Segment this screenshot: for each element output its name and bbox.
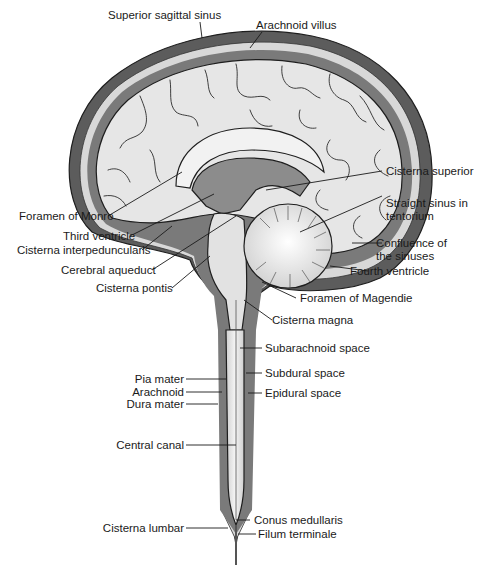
label-subdural-space: Subdural space <box>265 367 345 379</box>
label-central-canal: Central canal <box>116 439 184 451</box>
spinal-cord <box>226 330 244 525</box>
label-straight-sinus-2: tentorium <box>386 210 434 222</box>
label-cisterna-pontis: Cisterna pontis <box>96 282 173 294</box>
label-conus-medullaris: Conus medullaris <box>254 514 343 526</box>
label-fourth-ventricle: Fourth ventricle <box>350 265 429 277</box>
label-epidural-space: Epidural space <box>265 387 341 399</box>
label-foramen-of-monro: Foramen of Monro <box>19 210 114 222</box>
label-third-ventricle: Third ventricle <box>63 230 135 242</box>
label-pia-mater: Pia mater <box>135 373 184 385</box>
label-confluence-2: the sinuses <box>376 250 434 262</box>
label-cisterna-superior: Cisterna superior <box>386 165 474 177</box>
label-cisterna-magna: Cisterna magna <box>272 314 354 326</box>
label-foramen-of-magendie: Foramen of Magendie <box>300 292 413 304</box>
label-cisterna-interpeduncularis: Cisterna interpeduncularis <box>17 244 151 256</box>
label-confluence-1: Confluence of <box>376 237 448 249</box>
label-straight-sinus-1: Straight sinus in <box>386 197 468 209</box>
label-filum-terminale: Filum terminale <box>258 528 337 540</box>
label-cerebral-aqueduct: Cerebral aqueduct <box>61 264 156 276</box>
label-subarachnoid-space: Subarachnoid space <box>265 342 370 354</box>
label-superior-sagittal-sinus: Superior sagittal sinus <box>108 9 221 21</box>
brain-spinal-cord-diagram: Superior sagittal sinus Arachnoid villus… <box>0 0 480 575</box>
label-arachnoid: Arachnoid <box>132 386 184 398</box>
label-arachnoid-villus: Arachnoid villus <box>256 19 337 31</box>
label-dura-mater: Dura mater <box>126 398 184 410</box>
label-cisterna-lumbar: Cisterna lumbar <box>103 522 184 534</box>
